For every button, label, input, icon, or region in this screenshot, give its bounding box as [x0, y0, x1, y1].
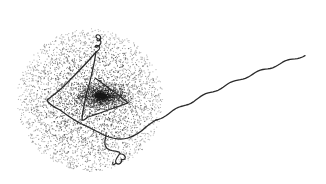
stippled-particle-illustration	[0, 0, 326, 184]
strand-tail	[156, 56, 305, 120]
strand-top-loop	[95, 35, 101, 52]
